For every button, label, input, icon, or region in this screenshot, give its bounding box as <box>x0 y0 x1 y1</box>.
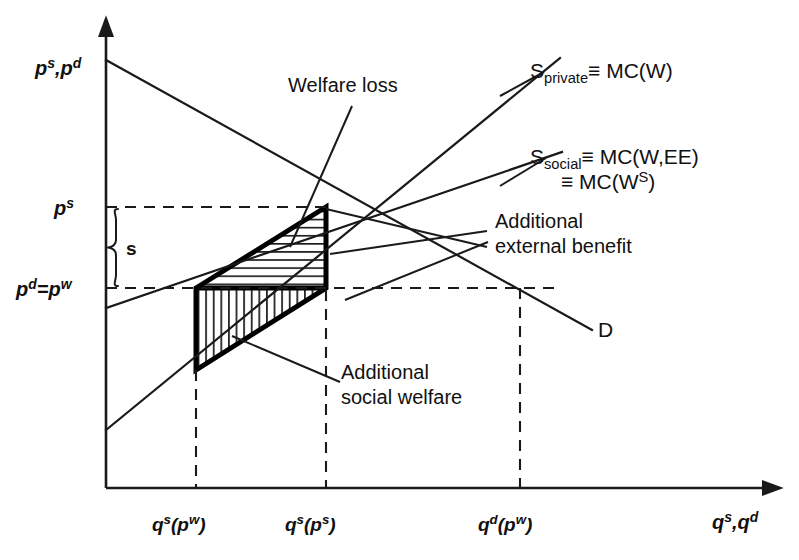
supply-private-label: Sprivate≡ MC(W) <box>530 59 673 86</box>
diagram-root: ps,pd qs,qd ps pd=pw s qs(pw) qs(ps) qd(… <box>0 0 799 560</box>
supply-social-curve <box>106 152 562 308</box>
supply-social-label-line2: ≡ MC(WS) <box>561 169 655 193</box>
y-axis-label: ps,pd <box>34 55 82 79</box>
annotation-additional-social-welfare-line1: Additional <box>341 361 429 383</box>
demand-curve <box>106 60 592 330</box>
demand-curve-label: D <box>598 318 613 341</box>
price-tick-label-world: pd=pw <box>15 276 73 300</box>
quantity-tick-label-qs-ps: qs(ps) <box>285 512 336 535</box>
supply-social-label: Ssocial≡ MC(W,EE) <box>530 145 699 172</box>
leader-external-benefit-a <box>326 209 487 247</box>
annotation-additional-external-benefit-line2: external benefit <box>495 235 632 257</box>
annotation-additional-social-welfare-line2: social welfare <box>341 386 462 408</box>
annotation-welfare-loss: Welfare loss <box>288 74 398 96</box>
axes-group <box>106 34 765 488</box>
price-tick-label-supply: ps <box>53 195 74 219</box>
quantity-tick-label-qs-pw: qs(pw) <box>152 512 206 535</box>
annotation-additional-external-benefit-line1: Additional <box>495 210 583 232</box>
reference-lines-group <box>106 207 560 488</box>
x-axis-label: qs,qd <box>712 509 759 533</box>
quantity-tick-label-qd-pw: qd(pw) <box>478 512 532 535</box>
leader-social-welfare <box>232 336 340 382</box>
leader-external-benefit-b <box>330 231 487 254</box>
subsidy-brace <box>108 209 118 286</box>
subsidy-brace-label: s <box>126 238 137 259</box>
supply-demand-chart: ps,pd qs,qd ps pd=pw s qs(pw) qs(ps) qd(… <box>0 0 799 560</box>
supply-private-curve <box>106 58 560 430</box>
leader-external-benefit-c <box>345 242 488 300</box>
